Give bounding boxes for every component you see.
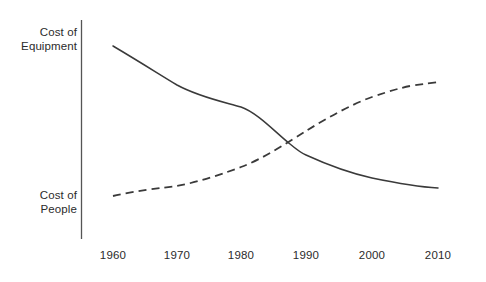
x-tick-label: 2010 [425, 248, 451, 262]
x-tick-label: 2000 [359, 248, 385, 262]
y-axis-label-low-line2: People [40, 202, 77, 216]
chart-container: Cost of Equipment Cost of People 1960 19… [0, 0, 486, 282]
x-tick-label: 1990 [293, 248, 319, 262]
series-line-cost-of-people [113, 82, 440, 196]
y-axis-label-high: Cost of Equipment [21, 25, 77, 53]
y-axis-label-low-line1: Cost of [40, 188, 77, 202]
y-axis-label-low: Cost of People [40, 188, 77, 216]
x-tick-label: 1960 [100, 248, 126, 262]
x-tick-label: 1980 [228, 248, 254, 262]
y-axis-label-high-line2: Equipment [21, 39, 77, 53]
series-line-cost-of-equipment [113, 46, 438, 188]
x-tick-label: 1970 [164, 248, 190, 262]
y-axis-label-high-line1: Cost of [21, 25, 77, 39]
